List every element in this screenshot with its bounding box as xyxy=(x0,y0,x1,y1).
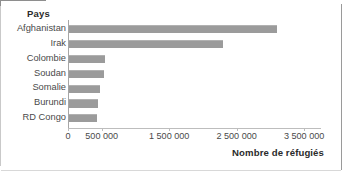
category-label: Irak xyxy=(0,38,66,48)
x-tick-label: 1 500 000 xyxy=(149,131,189,141)
bar-row: Irak xyxy=(0,37,342,52)
bar xyxy=(68,85,100,93)
bar xyxy=(68,25,277,33)
category-column-header: Pays xyxy=(10,8,67,19)
x-tick-label: 0 xyxy=(65,131,70,141)
bar-row: RD Congo xyxy=(0,111,342,126)
bar-row: Afghanistan xyxy=(0,22,342,37)
bar-track xyxy=(68,96,334,111)
bar xyxy=(68,114,97,122)
bar-row: Soudan xyxy=(0,67,342,82)
x-tick-label: 500 000 xyxy=(85,131,118,141)
bar-track xyxy=(68,22,334,37)
bar-row: Somalie xyxy=(0,81,342,96)
x-tick-label: 3 500 000 xyxy=(284,131,324,141)
bar xyxy=(68,99,98,107)
bar xyxy=(68,55,105,63)
category-label: Soudan xyxy=(0,68,66,78)
bar xyxy=(68,40,223,48)
chart-figure: Pays AfghanistanIrakColombieSoudanSomali… xyxy=(0,0,342,173)
category-label: Somalie xyxy=(0,82,66,92)
x-axis-line xyxy=(68,128,321,129)
plot-area: Pays AfghanistanIrakColombieSoudanSomali… xyxy=(0,0,342,173)
x-axis-title: Nombre de réfugiés xyxy=(232,147,324,158)
bar-row: Burundi xyxy=(0,96,342,111)
bar-track xyxy=(68,81,334,96)
x-tick-label: 2 500 000 xyxy=(216,131,256,141)
bar-track xyxy=(68,111,334,126)
category-label: Burundi xyxy=(0,97,66,107)
category-label: RD Congo xyxy=(0,112,66,122)
bar xyxy=(68,70,104,78)
bar-rows: AfghanistanIrakColombieSoudanSomalieBuru… xyxy=(0,22,342,126)
category-label: Afghanistan xyxy=(0,23,66,33)
bar-row: Colombie xyxy=(0,52,342,67)
x-axis-tick-labels: 0500 0001 500 0002 500 0003 500 000 xyxy=(0,131,342,145)
bar-track xyxy=(68,52,334,67)
category-label: Colombie xyxy=(0,53,66,63)
bar-track xyxy=(68,37,334,52)
bar-track xyxy=(68,67,334,82)
y-axis-line xyxy=(68,20,69,128)
